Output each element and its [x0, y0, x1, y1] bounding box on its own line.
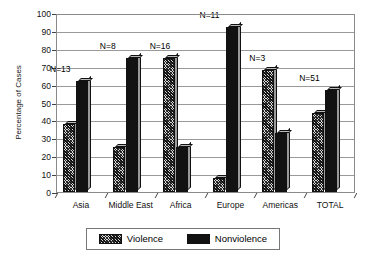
bar-face	[76, 81, 88, 192]
y-axis-tick-label: 20	[42, 153, 51, 162]
plot-area: 0102030405060708090100 N=13N=8N=16N=11N=…	[56, 14, 355, 193]
x-axis-tick-label-asia: Asia	[73, 200, 90, 210]
bar-top-shade	[277, 130, 292, 133]
y-axis-tick-label: 0	[46, 189, 51, 198]
bar-side-shade	[238, 22, 241, 190]
x-axis-tick-label-americas: Americas	[263, 200, 298, 210]
legend-label-violence: Violence	[127, 234, 163, 244]
bar-violence-asia	[63, 124, 75, 192]
y-axis-tick-label: 40	[42, 117, 51, 126]
bar-violence-total	[312, 113, 324, 192]
n-label-europe: N=11	[200, 11, 220, 20]
bar-face	[213, 178, 225, 192]
bar-nonviolence-americas	[275, 133, 287, 192]
bar-face	[226, 27, 238, 192]
x-axis-tick	[304, 193, 308, 198]
bar-nonviolence-europe	[226, 27, 238, 192]
bar-face	[126, 58, 138, 192]
bar-violence-americas	[262, 70, 274, 192]
bar-face	[176, 147, 188, 192]
x-axis-tick-label-europe: Europe	[217, 200, 244, 210]
bar-side-shade	[188, 142, 191, 190]
bar-side-shade	[337, 85, 340, 190]
y-axis-tick-label: 80	[42, 46, 51, 55]
bar-nonviolence-africa	[176, 147, 188, 192]
bar-nonviolence-total	[325, 90, 337, 192]
x-axis-tick	[55, 193, 59, 198]
x-axis-tick	[254, 193, 258, 198]
nonviolence-swatch-icon	[187, 234, 210, 244]
bar-nonviolence-asia	[76, 81, 88, 192]
n-label-africa: N=16	[150, 42, 171, 51]
bar-side-shade	[88, 76, 91, 190]
bar-violence-africa	[163, 58, 175, 192]
bar-face	[312, 113, 324, 192]
y-axis-tick-label: 60	[42, 81, 51, 90]
x-axis-tick	[154, 193, 158, 198]
bar-top-shade	[128, 55, 143, 58]
x-axis-tick-label-africa: Africa	[170, 200, 192, 210]
bar-side-shade	[138, 53, 141, 190]
violence-swatch-icon	[99, 234, 122, 244]
bar-face	[262, 70, 274, 192]
legend-item-violence: Violence	[99, 234, 163, 244]
legend-item-nonviolence: Nonviolence	[187, 234, 267, 244]
bar-face	[163, 58, 175, 192]
x-axis-tick-label-middle-east: Middle East	[109, 200, 153, 210]
n-label-middle-east: N=8	[100, 42, 116, 51]
y-axis-tick-label: 30	[42, 135, 51, 144]
n-label-asia: N=13	[50, 65, 71, 74]
bar-face	[275, 133, 287, 192]
bar-violence-middle-east	[113, 147, 125, 192]
y-axis-tick-label: 10	[42, 171, 51, 180]
bar-face	[325, 90, 337, 192]
x-axis-tick	[354, 193, 358, 198]
x-axis-tick	[104, 193, 108, 198]
y-axis-tick-label: 100	[37, 10, 51, 19]
y-axis-tick-label: 90	[42, 28, 51, 37]
bar-side-shade	[287, 128, 290, 190]
bar-nonviolence-middle-east	[126, 58, 138, 192]
bar-top-shade	[165, 55, 180, 58]
x-axis-tick-label-total: TOTAL	[317, 200, 344, 210]
y-axis-title: Percentage of Cases	[14, 38, 23, 168]
bar-face	[63, 124, 75, 192]
bar-chart: Percentage of Cases 01020304050607080901…	[0, 0, 367, 259]
legend-label-nonviolence: Nonviolence	[215, 234, 267, 244]
bar-face	[113, 147, 125, 192]
x-axis: AsiaMiddle EastAfricaEuropeAmericasTOTAL	[56, 193, 355, 211]
legend: Violence Nonviolence	[86, 228, 280, 250]
y-axis-tick-label: 50	[42, 99, 51, 108]
n-label-americas: N=3	[249, 54, 265, 63]
n-label-total: N=51	[299, 74, 320, 83]
bar-violence-europe	[213, 178, 225, 192]
bar-top-shade	[264, 67, 279, 70]
x-axis-tick	[204, 193, 208, 198]
